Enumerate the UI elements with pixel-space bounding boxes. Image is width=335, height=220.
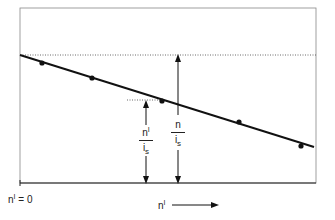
plot-frame (20, 8, 316, 183)
fraction-n-over-is: n is (170, 120, 186, 148)
x-axis-label: nI (158, 199, 166, 211)
origin-label: nI = 0 (8, 193, 32, 205)
fraction-n-prime-over-is: nI is (138, 126, 154, 156)
fit-line (20, 55, 314, 147)
diagram-canvas (0, 0, 335, 220)
